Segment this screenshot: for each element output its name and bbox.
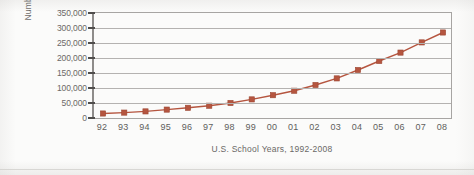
data-point-marker (270, 93, 275, 98)
plot-area (92, 12, 452, 119)
gridline (94, 103, 451, 104)
y-axis-tick-label: 350,000 (38, 8, 87, 18)
y-axis-tick-mark (88, 12, 95, 14)
gridline (94, 88, 451, 89)
x-axis-tick-labels: 9293949596979899000102030405060708 (92, 122, 452, 136)
y-axis-tick-mark (88, 42, 95, 44)
y-axis-tick-mark (88, 87, 95, 89)
y-axis-title: Number of Cases (21, 0, 35, 32)
y-axis-tick-label: 50,000 (38, 98, 87, 108)
data-point-marker (440, 30, 445, 35)
y-axis-tick-mark (88, 57, 95, 59)
data-point-marker (100, 111, 105, 116)
y-axis-tick-mark (88, 117, 95, 119)
gridline (94, 28, 451, 29)
y-axis-tick-label: 150,000 (38, 68, 87, 78)
y-axis-tick-label: 300,000 (38, 23, 87, 33)
chart-figure: Number of Cases 350,000300,000250,000200… (0, 0, 474, 175)
data-point-marker (122, 110, 127, 115)
data-point-marker (398, 50, 403, 55)
y-axis-tick-label: 250,000 (38, 38, 87, 48)
page-rule (0, 169, 474, 170)
gridline (94, 73, 451, 74)
gridline (94, 58, 451, 59)
data-point-marker (377, 58, 382, 63)
y-axis-tick-label: 100,000 (38, 83, 87, 93)
x-axis-title: U.S. School Years, 1992-2008 (92, 144, 452, 154)
y-axis-tick-mark (88, 27, 95, 29)
gridline (94, 43, 451, 44)
data-point-marker (334, 76, 339, 81)
y-axis-tick-label: 0 (38, 113, 87, 123)
y-axis-tick-mark (88, 102, 95, 104)
data-point-marker (185, 105, 190, 110)
data-point-marker (164, 107, 169, 112)
data-point-marker (249, 97, 254, 102)
x-axis-tick-label: 08 (429, 122, 455, 132)
y-axis-tick-mark (88, 72, 95, 74)
y-axis-tick-label: 200,000 (38, 53, 87, 63)
y-axis-tick-labels: 350,000300,000250,000200,000150,000100,0… (38, 12, 87, 119)
data-point-marker (143, 109, 148, 114)
data-point-marker (355, 67, 360, 72)
data-point-marker (313, 82, 318, 87)
